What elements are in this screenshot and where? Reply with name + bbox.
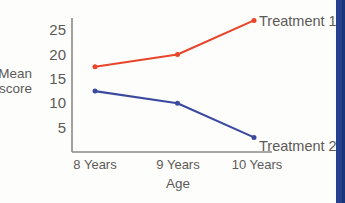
x-tick-label-8-years: 8 Years — [57, 157, 133, 172]
right-edge-bar — [336, 0, 345, 203]
y-axis-title-line2: score — [0, 81, 32, 96]
series-label-treatment-2: Treatment 2 — [259, 138, 337, 154]
data-point-treatment-2-10years — [252, 135, 257, 140]
x-tick-label-10-years: 10 Years — [217, 157, 297, 172]
data-point-treatment-1-10years — [252, 18, 257, 23]
y-tick-label-5: 5 — [36, 119, 66, 136]
line-chart: 25 20 15 10 5 Mean score 8 Years 9 Years… — [0, 0, 345, 203]
data-point-treatment-2-8years — [93, 89, 98, 94]
y-tick-label-25: 25 — [36, 21, 66, 38]
data-point-treatment-2-9years — [175, 101, 180, 106]
x-axis-title: Age — [140, 176, 216, 191]
y-axis-title-line1: Mean — [0, 66, 32, 81]
x-tick-label-9-years: 9 Years — [140, 157, 216, 172]
y-tick-label-10: 10 — [36, 94, 66, 111]
series-label-treatment-1: Treatment 1 — [259, 13, 337, 29]
data-point-treatment-1-8years — [93, 64, 98, 69]
series-line-treatment-1 — [95, 20, 254, 66]
series-line-treatment-2 — [95, 91, 254, 137]
y-tick-label-20: 20 — [36, 46, 66, 63]
data-point-treatment-1-9years — [175, 52, 180, 57]
y-tick-label-15: 15 — [36, 70, 66, 87]
